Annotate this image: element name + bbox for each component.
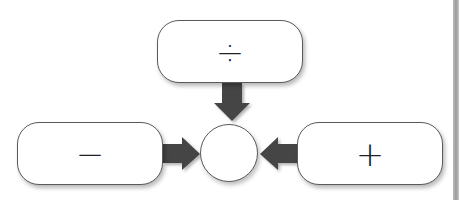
arrow-down-icon: [214, 83, 250, 121]
arrow-right-icon: [163, 137, 200, 170]
divide-box: ÷: [157, 20, 303, 83]
add-box: +: [297, 122, 443, 185]
arrow-left-icon: [260, 137, 297, 170]
add-symbol: +: [356, 137, 385, 171]
subtract-box: −: [17, 122, 163, 185]
page-edge-divider: [453, 0, 459, 200]
divide-symbol: ÷: [216, 35, 245, 69]
subtract-symbol: −: [76, 137, 105, 171]
operations-diagram: ÷ − +: [0, 0, 463, 200]
center-circle: [200, 124, 258, 182]
